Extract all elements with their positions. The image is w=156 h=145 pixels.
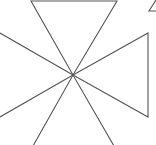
top-triangle	[31, 1, 117, 75]
left-triangle	[0, 33, 73, 117]
bottom-triangle	[33, 75, 114, 145]
corner-triangle-fragment	[149, 0, 156, 11]
pinwheel-diagram	[0, 0, 156, 145]
right-triangle	[73, 33, 148, 117]
